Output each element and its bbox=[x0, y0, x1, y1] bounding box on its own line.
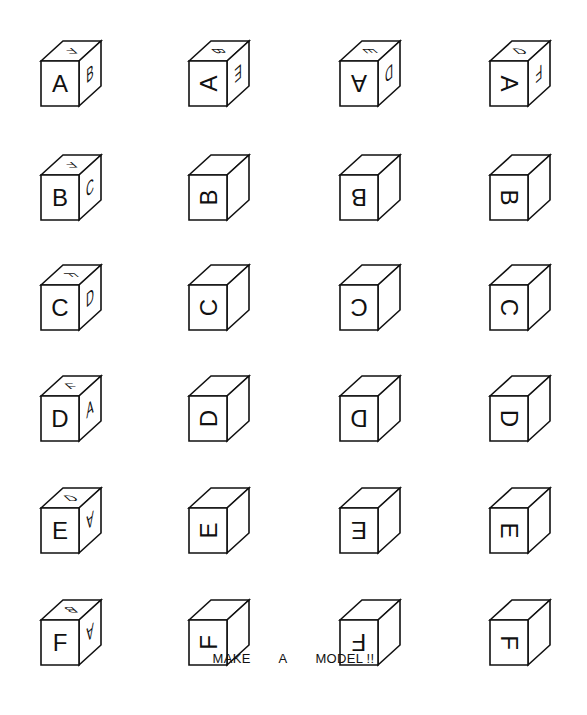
front-face-letter: C bbox=[350, 294, 367, 321]
cube-c-3: C bbox=[335, 260, 445, 360]
front-face-letter: D bbox=[51, 405, 68, 432]
cube-c-4: C bbox=[485, 260, 587, 360]
front-face-letter: B bbox=[496, 189, 523, 205]
front-face-letter: D bbox=[496, 410, 523, 427]
cube-drawing: D bbox=[485, 371, 587, 471]
front-face-letter: A bbox=[52, 70, 68, 97]
cube-drawing: C bbox=[184, 260, 294, 360]
front-face-letter: B bbox=[52, 184, 68, 211]
cube-b-2: B bbox=[184, 150, 294, 250]
cube-drawing: ADF bbox=[485, 36, 587, 136]
cube-b-3: B bbox=[335, 150, 445, 250]
cube-c-1: CFD bbox=[36, 260, 146, 360]
cube-f-2: F bbox=[184, 595, 294, 695]
cube-drawing: AFB bbox=[36, 36, 146, 136]
cube-drawing: D bbox=[335, 371, 445, 471]
front-face-letter: E bbox=[195, 522, 222, 538]
cube-a-2: ABE bbox=[184, 36, 294, 136]
cube-a-4: ADF bbox=[485, 36, 587, 136]
cube-drawing: E bbox=[485, 483, 587, 583]
front-face-letter: D bbox=[350, 405, 367, 432]
cube-a-3: AED bbox=[335, 36, 445, 136]
cube-drawing: F bbox=[184, 595, 294, 695]
cube-drawing: AED bbox=[335, 36, 445, 136]
caption-word-a: A bbox=[279, 651, 288, 666]
cube-drawing: BFC bbox=[36, 150, 146, 250]
cube-d-1: DFA bbox=[36, 371, 146, 471]
front-face-letter: C bbox=[496, 299, 523, 316]
cube-drawing: ABE bbox=[184, 36, 294, 136]
front-face-letter: F bbox=[195, 635, 222, 650]
cube-f-4: F bbox=[485, 595, 587, 695]
cube-d-2: D bbox=[184, 371, 294, 471]
cube-f-1: FBA bbox=[36, 595, 146, 695]
cube-drawing: EDA bbox=[36, 483, 146, 583]
caption-word-model: MODEL !! bbox=[315, 651, 374, 666]
cube-drawing: DFA bbox=[36, 371, 146, 471]
cube-drawing: CFD bbox=[36, 260, 146, 360]
cube-drawing: FBA bbox=[36, 595, 146, 695]
front-face-letter: E bbox=[52, 517, 68, 544]
caption-word-make: MAKE bbox=[213, 651, 251, 666]
cube-f-3: F bbox=[335, 595, 445, 695]
cube-drawing: B bbox=[335, 150, 445, 250]
cube-c-2: C bbox=[184, 260, 294, 360]
cube-e-2: E bbox=[184, 483, 294, 583]
cube-drawing: C bbox=[335, 260, 445, 360]
cube-drawing: B bbox=[485, 150, 587, 250]
front-face-letter: E bbox=[351, 517, 367, 544]
cube-a-1: AFB bbox=[36, 36, 146, 136]
front-face-letter: F bbox=[496, 635, 523, 650]
cube-d-3: D bbox=[335, 371, 445, 471]
cube-e-1: EDA bbox=[36, 483, 146, 583]
cube-e-3: E bbox=[335, 483, 445, 583]
cube-b-1: BFC bbox=[36, 150, 146, 250]
front-face-letter: B bbox=[351, 184, 367, 211]
cube-b-4: B bbox=[485, 150, 587, 250]
front-face-letter: D bbox=[195, 410, 222, 427]
cube-e-4: E bbox=[485, 483, 587, 583]
caption: MAKE A MODEL !! bbox=[0, 651, 587, 666]
front-face-letter: B bbox=[195, 189, 222, 205]
cube-drawing: C bbox=[485, 260, 587, 360]
cube-drawing: E bbox=[335, 483, 445, 583]
cube-drawing: F bbox=[335, 595, 445, 695]
cube-drawing: B bbox=[184, 150, 294, 250]
cube-d-4: D bbox=[485, 371, 587, 471]
front-face-letter: E bbox=[496, 522, 523, 538]
front-face-letter: C bbox=[195, 299, 222, 316]
cube-drawing: D bbox=[184, 371, 294, 471]
front-face-letter: A bbox=[195, 75, 222, 91]
cube-drawing: E bbox=[184, 483, 294, 583]
front-face-letter: C bbox=[51, 294, 68, 321]
front-face-letter: A bbox=[351, 70, 367, 97]
front-face-letter: A bbox=[496, 75, 523, 91]
cube-drawing: F bbox=[485, 595, 587, 695]
